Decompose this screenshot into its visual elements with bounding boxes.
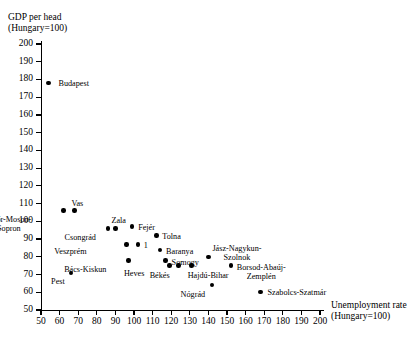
data-point[interactable] — [206, 255, 210, 259]
x-tick-mark — [319, 310, 320, 315]
y-tick-mark — [36, 114, 41, 115]
y-tick-label: 50 — [9, 304, 33, 314]
x-tick-mark — [208, 310, 209, 315]
y-tick-mark — [36, 203, 41, 204]
y-tick-mark — [36, 238, 41, 239]
y-tick-mark — [36, 168, 41, 169]
data-point[interactable] — [61, 208, 65, 212]
y-tick-label: 90 — [9, 233, 33, 243]
data-point-label: Baranya — [166, 247, 193, 256]
data-point[interactable] — [154, 233, 158, 237]
y-tick-mark — [36, 97, 41, 98]
y-tick-mark — [36, 221, 41, 222]
data-point[interactable] — [210, 283, 214, 287]
data-point-label: Jász-Nagykun- Szolnok — [212, 244, 261, 263]
x-tick-mark — [171, 310, 172, 315]
y-tick-label: 70 — [9, 269, 33, 279]
data-point-label: Fejér — [138, 223, 155, 232]
data-point-label: Szabolcs-Szatmár — [267, 288, 326, 297]
data-point-label: 1 — [144, 241, 148, 250]
y-tick-mark — [36, 43, 41, 44]
data-point[interactable] — [124, 242, 128, 246]
x-tick-mark — [59, 310, 60, 315]
y-tick-label: 80 — [9, 251, 33, 261]
x-tick-mark — [115, 310, 116, 315]
data-point-label: Borsod-Abaúj- Zemplén — [237, 263, 286, 282]
data-point[interactable] — [189, 263, 193, 267]
y-tick-mark — [36, 150, 41, 151]
x-tick-mark — [226, 310, 227, 315]
y-tick-label: 170 — [9, 91, 33, 101]
y-axis-title: GDP per head (Hungary=100) — [8, 12, 67, 34]
data-point[interactable] — [130, 224, 134, 228]
data-point-label: Vas — [71, 199, 83, 208]
x-tick-mark — [282, 310, 283, 315]
x-tick-label: 200 — [307, 316, 333, 326]
x-axis-title: Unemployment rate (Hungary=100) — [331, 300, 407, 322]
data-point[interactable] — [167, 263, 171, 267]
y-tick-mark — [36, 185, 41, 186]
x-tick-mark — [78, 310, 79, 315]
data-point[interactable] — [163, 258, 167, 262]
x-tick-mark — [301, 310, 302, 315]
data-point[interactable] — [158, 248, 162, 252]
x-tick-mark — [133, 310, 134, 315]
data-point-label: Veszprém — [54, 247, 86, 256]
data-point-label: Nógrád — [181, 290, 206, 299]
data-point[interactable] — [136, 242, 140, 246]
data-point-label: Bács-Kiskun — [64, 265, 106, 274]
x-tick-mark — [264, 310, 265, 315]
data-point-label: Győr-Moson- Sopron — [0, 215, 31, 234]
data-point[interactable] — [229, 263, 233, 267]
data-point-label: Budapest — [58, 79, 88, 88]
y-tick-label: 60 — [9, 286, 33, 296]
data-point[interactable] — [258, 290, 262, 294]
x-tick-mark — [96, 310, 97, 315]
y-tick-label: 110 — [9, 198, 33, 208]
y-axis-line — [41, 41, 42, 311]
data-point[interactable] — [106, 226, 110, 230]
data-point-label: Pest — [51, 277, 65, 286]
x-tick-mark — [40, 310, 41, 315]
data-point-label: Heves — [124, 269, 144, 278]
data-point-label: Zala — [111, 216, 126, 225]
y-tick-mark — [36, 292, 41, 293]
data-point[interactable] — [113, 226, 117, 230]
y-tick-label: 200 — [9, 38, 33, 48]
data-point[interactable] — [72, 208, 76, 212]
y-tick-label: 150 — [9, 127, 33, 137]
data-point[interactable] — [46, 81, 50, 85]
y-tick-mark — [36, 256, 41, 257]
y-tick-mark — [36, 79, 41, 80]
data-point[interactable] — [176, 263, 180, 267]
scatter-chart: GDP per head (Hungary=100) Unemployment … — [0, 0, 408, 345]
data-point-label: Békés — [150, 271, 170, 280]
y-tick-mark — [36, 61, 41, 62]
x-tick-mark — [245, 310, 246, 315]
y-tick-mark — [36, 132, 41, 133]
data-point-label: Tolna — [162, 232, 181, 241]
x-tick-mark — [152, 310, 153, 315]
y-tick-label: 160 — [9, 109, 33, 119]
data-point-label: Hajdú-Bihar — [188, 271, 229, 280]
y-tick-mark — [36, 274, 41, 275]
y-tick-label: 180 — [9, 73, 33, 83]
data-point[interactable] — [126, 258, 130, 262]
y-tick-label: 140 — [9, 144, 33, 154]
data-point-label: Csongrád — [65, 233, 96, 242]
y-tick-label: 120 — [9, 180, 33, 190]
y-tick-label: 190 — [9, 56, 33, 66]
y-tick-label: 130 — [9, 162, 33, 172]
x-tick-mark — [189, 310, 190, 315]
